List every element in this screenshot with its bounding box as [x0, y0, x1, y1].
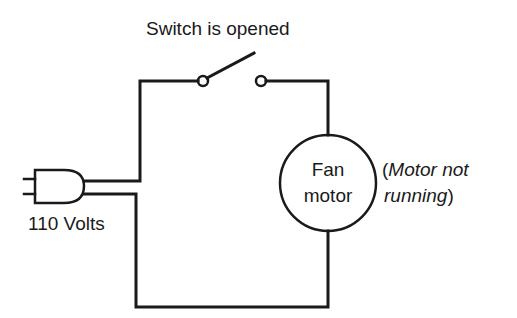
status-note-line1: (Motor not: [382, 159, 469, 181]
wire-bottom: [84, 194, 328, 307]
motor-label-line1: Fan: [298, 159, 358, 181]
fan-motor: [280, 135, 376, 231]
close-paren: ): [447, 185, 453, 206]
status-note-text2: running: [384, 185, 447, 206]
wire-top: [84, 81, 198, 181]
plug-icon: [35, 170, 84, 203]
status-note-text1: Motor not: [388, 159, 468, 180]
voltage-label: 110 Volts: [28, 213, 105, 235]
status-note-line2: running): [384, 185, 454, 207]
diagram-title: Switch is opened: [146, 18, 290, 40]
motor-label-line2: motor: [288, 185, 368, 207]
switch-arm: [207, 53, 254, 78]
wire-right: [266, 81, 328, 135]
